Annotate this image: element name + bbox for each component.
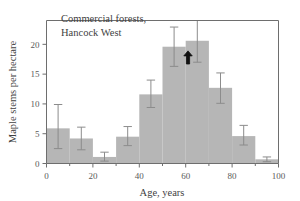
y-tick-label: 20 bbox=[31, 40, 41, 50]
chart-annotation-line-1: Commercial forests, bbox=[61, 13, 146, 24]
x-tick-label: 80 bbox=[228, 171, 238, 181]
x-tick-label: 20 bbox=[88, 171, 98, 181]
y-tick-label: 5 bbox=[35, 129, 40, 139]
y-tick-label: 10 bbox=[31, 99, 41, 109]
x-tick-label: 0 bbox=[44, 171, 49, 181]
bar-chart-svg: 020406080100 05101520 Age, years Maple s… bbox=[0, 0, 300, 201]
y-axis-label: Maple stems per hectare bbox=[7, 41, 18, 144]
chart-annotation-line-2: Hancock West bbox=[61, 27, 122, 38]
y-tick-label: 0 bbox=[35, 159, 40, 169]
x-tick-label: 100 bbox=[272, 171, 286, 181]
x-tick-label: 60 bbox=[181, 171, 191, 181]
x-tick-label: 40 bbox=[135, 171, 145, 181]
x-axis-label: Age, years bbox=[140, 187, 185, 198]
y-tick-label: 15 bbox=[31, 69, 41, 79]
chart-figure: 020406080100 05101520 Age, years Maple s… bbox=[0, 0, 300, 201]
